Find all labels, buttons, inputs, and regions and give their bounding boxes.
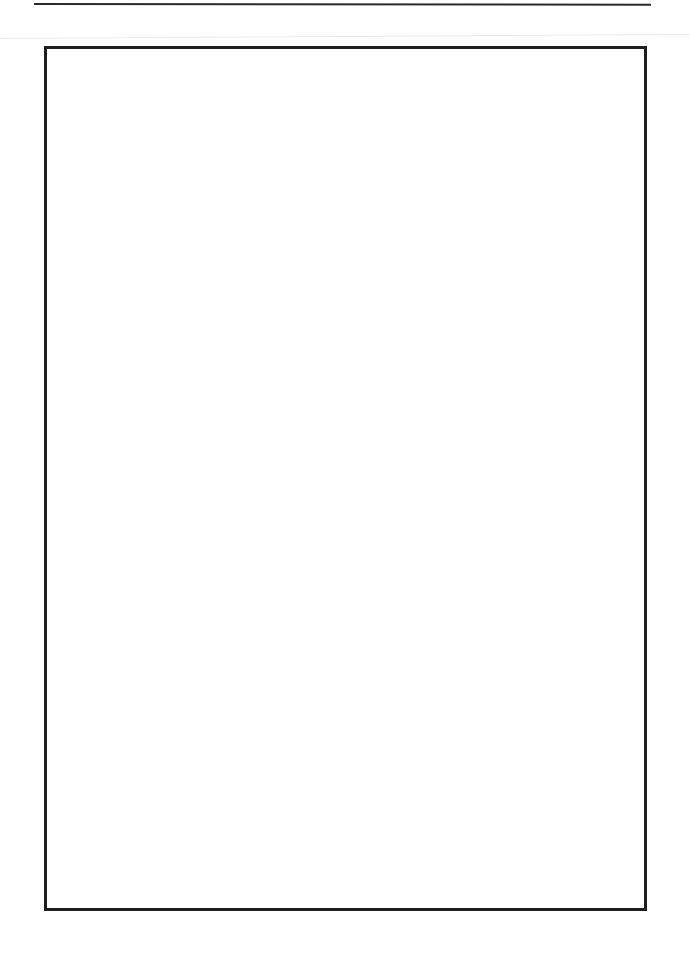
- page-frame: [44, 46, 647, 911]
- frame-content: [47, 49, 644, 908]
- header-rule: [34, 3, 651, 6]
- scan-artifact-line: [0, 34, 690, 39]
